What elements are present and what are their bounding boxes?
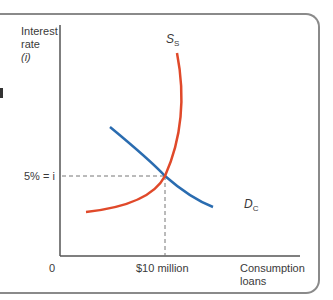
demand-curve (110, 127, 213, 207)
origin-label: 0 (49, 262, 55, 275)
y-axis-label: Interest rate (i) (21, 25, 58, 64)
rate-tick-label: 5% = i (24, 170, 55, 183)
quantity-tick-label: $10 million (136, 262, 189, 275)
supply-curve (86, 53, 181, 212)
supply-curve-label: SS (166, 33, 179, 50)
x-axis-label: Consumption loans (240, 262, 305, 288)
demand-curve-label: DC (244, 198, 258, 215)
